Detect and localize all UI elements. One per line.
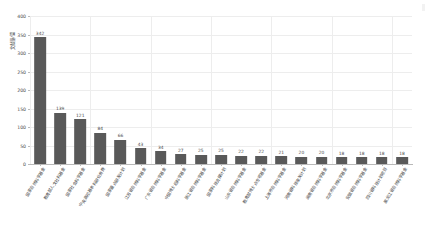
- y-axis-tick-mark: [28, 109, 30, 110]
- x-axis-labels: 国家自然科学基金教育部人文社科基金国家社会科学基金中央高校基本科研业务费国家重点…: [0, 167, 430, 237]
- bar[interactable]: [54, 113, 66, 164]
- y-axis-tick-mark: [28, 90, 30, 91]
- bar[interactable]: [396, 157, 408, 164]
- bar-slot: 66: [110, 16, 130, 164]
- bar-slot: 342: [30, 16, 50, 164]
- bar-value-label: 18: [339, 151, 345, 156]
- bar[interactable]: [95, 133, 107, 164]
- bar-value-label: 34: [158, 145, 164, 150]
- bar-value-label: 18: [399, 151, 405, 156]
- bar[interactable]: [175, 154, 187, 164]
- bar-series: 3421391218466433427252522222120201818181…: [30, 16, 412, 164]
- y-axis-tick-label: 400: [1, 14, 26, 19]
- bar[interactable]: [296, 157, 308, 164]
- x-axis-tick-label: 教育部人文社科基金: [43, 167, 67, 201]
- bar-slot: 22: [251, 16, 271, 164]
- x-axis-tick-label: 国家科技支撑计划: [206, 167, 227, 198]
- x-axis-tick-mark: [362, 164, 363, 166]
- bar-value-label: 25: [198, 148, 204, 153]
- bar-slot: 43: [131, 16, 151, 164]
- bar-value-label: 20: [319, 150, 325, 155]
- bar-slot: 34: [151, 16, 171, 164]
- bar-slot: 18: [332, 16, 352, 164]
- bar-slot: 22: [231, 16, 251, 164]
- bar-value-label: 139: [56, 106, 64, 111]
- y-axis-tick-mark: [28, 146, 30, 147]
- y-axis-tick-mark: [28, 127, 30, 128]
- bar-value-label: 21: [279, 150, 285, 155]
- bar[interactable]: [376, 157, 388, 164]
- bar[interactable]: [356, 157, 368, 164]
- x-axis-tick-mark: [342, 164, 343, 166]
- bar-slot: 21: [271, 16, 291, 164]
- bar-value-label: 43: [138, 142, 144, 147]
- bar[interactable]: [255, 156, 267, 164]
- bar-slot: 18: [392, 16, 412, 164]
- x-axis-tick-mark: [60, 164, 61, 166]
- bar-slot: 121: [70, 16, 90, 164]
- y-axis-tick-mark: [28, 35, 30, 36]
- bar-value-label: 20: [299, 150, 305, 155]
- plot-area: 3421391218466433427252522222120201818181…: [30, 16, 412, 164]
- bar-value-label: 342: [36, 31, 44, 36]
- x-axis-tick-label: 国家自然科学基金: [25, 167, 46, 198]
- bar[interactable]: [215, 155, 227, 164]
- bar-value-label: 121: [76, 113, 84, 118]
- bar[interactable]: [195, 155, 207, 164]
- y-axis-tick-mark: [28, 16, 30, 17]
- x-axis-tick-mark: [40, 164, 41, 166]
- bar-value-label: 25: [218, 148, 224, 153]
- bar[interactable]: [275, 156, 287, 164]
- x-axis-tick-mark: [322, 164, 323, 166]
- x-axis-tick-mark: [181, 164, 182, 166]
- x-axis-tick-mark: [402, 164, 403, 166]
- bar-slot: 27: [171, 16, 191, 164]
- bar[interactable]: [74, 119, 86, 164]
- y-axis-tick-label: 0: [1, 162, 26, 167]
- bar-value-label: 27: [178, 148, 184, 153]
- y-axis-tick-label: 200: [1, 88, 26, 93]
- bar[interactable]: [155, 151, 167, 164]
- y-axis-tick-mark: [28, 72, 30, 73]
- bar[interactable]: [235, 156, 247, 164]
- y-axis-tick-label: 300: [1, 51, 26, 56]
- x-axis-tick-label: 浙江省自然科学基金: [184, 167, 208, 201]
- bar[interactable]: [115, 140, 127, 164]
- x-axis-tick-label: 国家社会科学基金: [66, 167, 87, 198]
- bar-slot: 139: [50, 16, 70, 164]
- bar[interactable]: [135, 148, 147, 164]
- bar-slot: 84: [90, 16, 110, 164]
- bar-value-label: 18: [359, 151, 365, 156]
- y-axis-tick-label: 100: [1, 125, 26, 130]
- bar[interactable]: [316, 157, 328, 164]
- x-axis-tick-label: 国家重点研发计划: [106, 167, 127, 198]
- bar-chart: 文献量/篇 3421391218466433427252522222120201…: [0, 0, 430, 237]
- y-axis-tick-label: 350: [1, 32, 26, 37]
- y-axis-tick-label: 50: [1, 143, 26, 148]
- bar-slot: 20: [291, 16, 311, 164]
- bar-slot: 18: [352, 16, 372, 164]
- bar-slot: 18: [372, 16, 392, 164]
- x-axis-tick-mark: [241, 164, 242, 166]
- bar-slot: 20: [311, 16, 331, 164]
- x-axis-tick-mark: [141, 164, 142, 166]
- corner-artifact: [422, 4, 425, 11]
- bar-value-label: 22: [238, 149, 244, 154]
- bar-value-label: 22: [258, 149, 264, 154]
- bar-slot: 25: [211, 16, 231, 164]
- y-axis-tick-label: 150: [1, 106, 26, 111]
- x-axis-tick-mark: [161, 164, 162, 166]
- y-axis-tick-mark: [28, 53, 30, 54]
- bar-slot: 25: [191, 16, 211, 164]
- x-axis-tick-mark: [221, 164, 222, 166]
- x-axis-tick-mark: [201, 164, 202, 166]
- x-axis-tick-mark: [382, 164, 383, 166]
- bar[interactable]: [34, 37, 46, 164]
- y-axis-tick-mark: [28, 164, 30, 165]
- y-axis-tick-label: 250: [1, 69, 26, 74]
- bar-value-label: 66: [118, 133, 124, 138]
- bar[interactable]: [336, 157, 348, 164]
- bar-value-label: 18: [379, 151, 385, 156]
- bar-value-label: 84: [98, 126, 104, 131]
